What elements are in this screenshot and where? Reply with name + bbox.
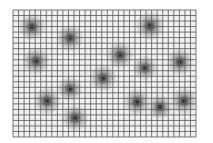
grid-image (0, 0, 213, 143)
light-field (13, 10, 196, 137)
